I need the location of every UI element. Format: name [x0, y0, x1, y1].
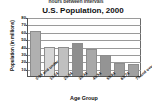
- bar: [86, 49, 97, 76]
- cutoff-caption-text: hours between intervals: [0, 0, 152, 4]
- y-tick-label: 70: [21, 23, 26, 27]
- y-axis-title: Population (in millions): [10, 15, 15, 77]
- y-tick-label: 30: [21, 53, 26, 57]
- y-tick-label: 40: [21, 45, 26, 49]
- chart-title: U.S. Population, 2000: [18, 6, 148, 16]
- y-tick-label: 10: [21, 68, 26, 72]
- bar: [72, 43, 83, 76]
- y-tick-label: 50: [21, 38, 26, 42]
- x-axis-tick-labels: 0-14 and under15-2425-3435-4445-5455-646…: [27, 78, 141, 95]
- chart-screenshot: hours between intervals U.S. Population,…: [0, 0, 152, 107]
- bar: [30, 31, 41, 76]
- y-tick-label: 60: [21, 31, 26, 35]
- x-axis-title: Age Group: [27, 95, 141, 101]
- y-tick-label: 80: [21, 16, 26, 20]
- y-tick-label: 20: [21, 60, 26, 64]
